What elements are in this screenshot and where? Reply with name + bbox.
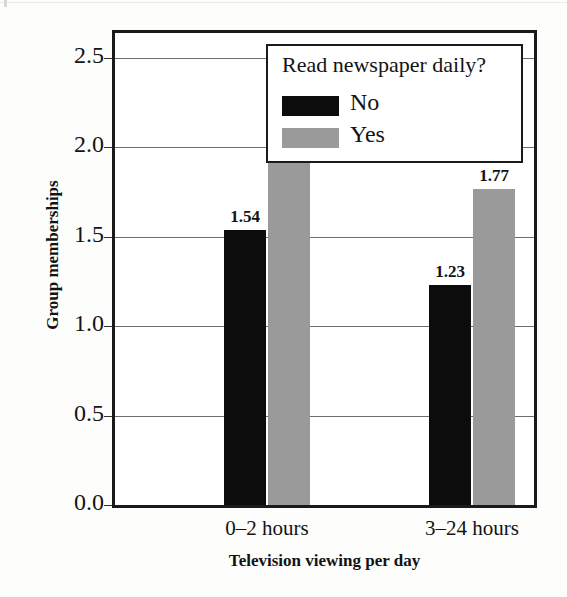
bar-value-label: 1.77: [464, 166, 524, 186]
y-tick-label: 1.0: [74, 310, 104, 337]
legend-swatch-no: [282, 96, 339, 116]
scan-artifact-mark: [4, 0, 7, 7]
x-axis-title: Television viewing per day: [112, 551, 537, 571]
bar-value-label: 1.54: [215, 207, 275, 227]
bar-no-0: [224, 230, 266, 505]
legend: Read newspaper daily? No Yes: [266, 44, 523, 163]
legend-swatch-yes: [282, 128, 339, 148]
legend-label-yes: Yes: [350, 121, 385, 148]
x-tick-label: 0–2 hours: [177, 516, 357, 541]
y-tick-label: 0.0: [74, 489, 104, 516]
bar-yes-1: [473, 189, 515, 505]
gridline: [115, 237, 534, 238]
y-axis: Group memberships 0.00.51.01.52.02.5: [30, 30, 104, 508]
y-tick-label: 1.5: [74, 221, 104, 248]
bar-yes-0: [268, 121, 310, 505]
legend-title: Read newspaper daily?: [282, 52, 486, 78]
scan-artifact-line: [0, 2, 567, 3]
y-tick-label: 0.5: [74, 400, 104, 427]
y-axis-title: Group memberships: [43, 155, 63, 355]
bar-no-1: [429, 285, 471, 505]
x-tick-label: 3–24 hours: [382, 516, 562, 541]
y-tick-label: 2.5: [74, 42, 104, 69]
bar-value-label: 1.23: [420, 262, 480, 282]
gridline: [115, 416, 534, 417]
y-tick-label: 2.0: [74, 131, 104, 158]
gridline: [115, 326, 534, 327]
legend-label-no: No: [350, 89, 379, 116]
bar-chart-figure: Group memberships 0.00.51.01.52.02.5 1.5…: [0, 0, 567, 597]
